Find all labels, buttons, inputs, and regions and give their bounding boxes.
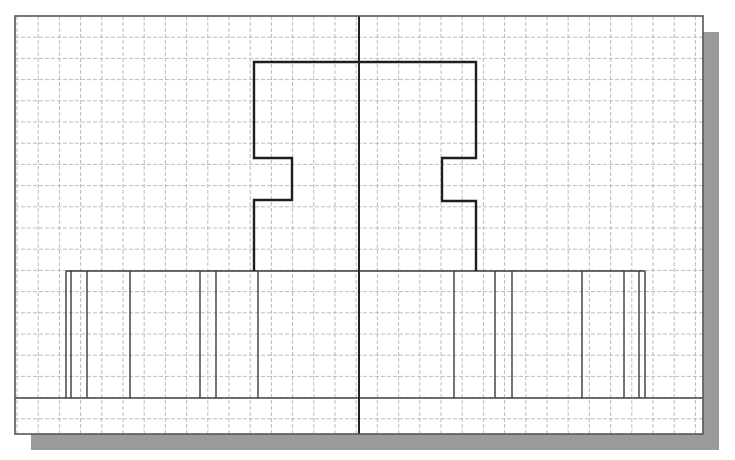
drawing-canvas[interactable] <box>0 0 735 460</box>
